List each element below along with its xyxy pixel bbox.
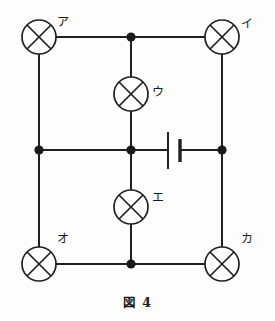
junction-middle-right	[217, 145, 226, 154]
lamp-o-label: オ	[57, 233, 69, 245]
junction-top-center	[126, 32, 135, 41]
lamp-e-label: エ	[152, 192, 164, 204]
lamp-a[interactable]	[22, 20, 56, 54]
lamp-i[interactable]	[205, 20, 239, 54]
lamp-o[interactable]	[22, 247, 56, 281]
figure-caption: 図 4	[0, 292, 275, 311]
junction-bottom-center	[126, 259, 135, 268]
lamp-ka[interactable]	[205, 247, 239, 281]
lamp-a-label: ア	[57, 16, 69, 28]
lamp-u[interactable]	[114, 77, 148, 111]
battery-symbol	[168, 132, 180, 169]
junction-center	[126, 145, 135, 154]
lamp-u-label: ウ	[152, 86, 164, 98]
lamp-i-label: イ	[241, 18, 253, 30]
lamp-e[interactable]	[114, 190, 148, 224]
lamp-ka-label: カ	[241, 233, 253, 245]
circuit-diagram	[0, 0, 275, 321]
junction-middle-left	[34, 145, 43, 154]
figure-container: ア イ ウ エ オ カ 図 4	[0, 0, 275, 321]
